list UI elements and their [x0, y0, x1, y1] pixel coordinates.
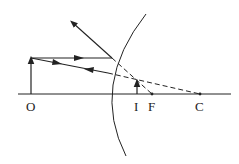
label-image: I — [134, 99, 138, 114]
label-center: C — [195, 99, 204, 114]
virtual-ray-to-focus — [112, 58, 152, 94]
arrow-parallel — [74, 55, 84, 61]
focus-point — [151, 93, 154, 96]
reflected-ray-upper — [73, 23, 112, 58]
convex-mirror — [112, 14, 146, 156]
arrow-incident-center — [52, 59, 62, 65]
arrow-reflected-center — [84, 67, 94, 73]
label-object: O — [26, 99, 35, 114]
virtual-ray-to-center — [108, 73, 200, 94]
incident-ray-to-center — [31, 58, 108, 73]
ray-diagram: O I F C — [0, 0, 239, 164]
label-focus: F — [148, 99, 155, 114]
center-point — [199, 93, 202, 96]
